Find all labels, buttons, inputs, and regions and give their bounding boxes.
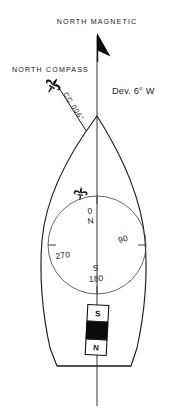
north-compass-label: NORTH COMPASS: [12, 66, 89, 74]
rose-label-south: S: [92, 263, 99, 273]
magnet-north-pole-label: N: [93, 343, 99, 352]
diagram-canvas: CC 006° 0 N 90 S 180 270: [0, 0, 180, 420]
magnetic-north-arrow-icon: [97, 34, 110, 57]
compass-deviation-diagram: CC 006° 0 N 90 S 180 270: [0, 0, 180, 420]
rose-label-180: 180: [88, 273, 103, 284]
magnet-south-pole-label: S: [95, 309, 101, 318]
magnet-core-band: [86, 321, 108, 340]
deviation-label: Dev. 6° W: [112, 86, 155, 96]
north-magnetic-label: NORTH MAGNETIC: [57, 18, 138, 26]
deviation-magnet: S N: [85, 304, 109, 355]
compass-course-label: CC 006°: [62, 91, 86, 122]
compass-north-fleur-de-lis-icon: [42, 74, 64, 96]
rose-label-270: 270: [55, 249, 71, 261]
